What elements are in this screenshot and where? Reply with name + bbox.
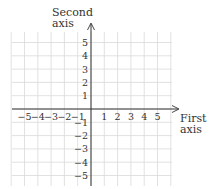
- second-axis-title-line2: axis: [52, 18, 93, 29]
- x-tick-label: 1: [101, 111, 107, 122]
- y-tick-label: 5: [82, 37, 88, 48]
- x-tick-label: 5: [154, 111, 160, 122]
- coordinate-plane: −5−4−3−2−1 12345 54321 −1−2−3−4−5 Second…: [0, 0, 211, 189]
- x-tick-label: 4: [141, 111, 147, 122]
- x-tick-label: −3: [44, 111, 58, 122]
- y-tick-label: −1: [74, 117, 88, 128]
- x-tick-label: 2: [115, 111, 121, 122]
- y-tick-label: −2: [74, 130, 88, 141]
- y-tick-label: 4: [82, 50, 88, 61]
- y-tick-label: −3: [74, 143, 88, 154]
- y-tick-label: −5: [74, 170, 88, 181]
- y-tick-labels-negative: −1−2−3−4−5: [74, 117, 88, 181]
- x-tick-labels-positive: 12345: [101, 111, 160, 122]
- first-axis-title: First axis: [180, 113, 206, 135]
- y-tick-labels-positive: 54321: [82, 37, 88, 101]
- second-axis-title: Second axis: [52, 7, 93, 29]
- first-axis-title-line2: axis: [180, 124, 206, 135]
- y-tick-label: 3: [82, 64, 88, 75]
- y-tick-label: 2: [82, 77, 88, 88]
- x-tick-label: 3: [128, 111, 134, 122]
- x-tick-label: −4: [31, 111, 45, 122]
- x-tick-label: −5: [17, 111, 31, 122]
- y-tick-label: 1: [82, 90, 88, 101]
- coordinate-plane-svg: −5−4−3−2−1 12345 54321 −1−2−3−4−5: [0, 0, 211, 189]
- y-tick-label: −4: [74, 157, 88, 168]
- x-tick-label: −2: [57, 111, 71, 122]
